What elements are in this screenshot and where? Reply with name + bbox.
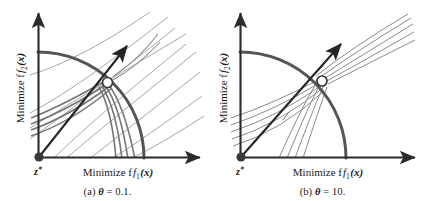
panel-b-caption: (b) θ = 10. <box>215 186 430 197</box>
ideal-point-marker-b <box>236 152 245 161</box>
solution-point-b <box>317 76 327 86</box>
y-axis-label-a: Minimize ff2(x) <box>14 53 29 123</box>
panel-b-caption-theta: θ <box>315 186 321 197</box>
x-axis-label-b: Minimize ff1(x) <box>293 166 363 181</box>
reference-ray-b <box>241 44 341 157</box>
panel-a-plot: z* Minimize ff1(x) Minimize ff2(x) <box>0 0 215 201</box>
ideal-point-label-a: z* <box>33 165 43 178</box>
panel-b-caption-prefix: (b) <box>300 186 313 197</box>
pareto-front-curve-b <box>240 52 346 158</box>
panel-a-caption-value: = 0.1. <box>107 186 132 197</box>
y-axis-label-b: Minimize ff2(x) <box>217 53 232 123</box>
panel-a-caption: (a) θ = 0.1. <box>0 186 215 197</box>
panel-b-plot: z* Minimize ff1(x) Minimize ff2(x) <box>215 0 430 201</box>
figure-container: z* Minimize ff1(x) Minimize ff2(x) (a) θ… <box>0 0 430 201</box>
panel-a-caption-prefix: (a) <box>84 186 96 197</box>
solution-point-a <box>103 78 113 88</box>
ideal-point-label-b: z* <box>235 165 245 178</box>
panel-a: z* Minimize ff1(x) Minimize ff2(x) (a) θ… <box>0 0 215 201</box>
panel-b: z* Minimize ff1(x) Minimize ff2(x) (b) θ… <box>215 0 430 201</box>
panel-a-caption-theta: θ <box>98 186 104 197</box>
panel-b-caption-value: = 10. <box>323 186 345 197</box>
ideal-point-marker-a <box>34 152 43 161</box>
x-axis-label-a: Minimize ff1(x) <box>83 166 153 181</box>
